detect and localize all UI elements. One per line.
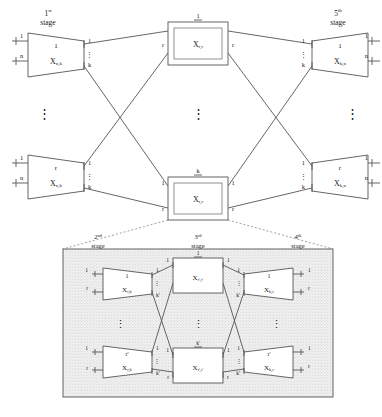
inset-center-bottom-out-top: 1	[227, 347, 230, 353]
left-bottom-in-bottom: n	[20, 174, 24, 181]
inset-right-top-top-port: 1	[268, 273, 271, 279]
fourth-stage-sup: th	[298, 233, 302, 238]
third-stage-word: stage	[191, 242, 204, 249]
fifth-stage-sup: th	[338, 8, 342, 13]
inset-right-top-out-bottom: r	[308, 285, 310, 291]
inset-expanded-middle: 2nd stage 3rd stage 4th stage	[63, 233, 333, 397]
fifth-stage-word: stage	[330, 18, 346, 27]
inset-right-bottom-in-bottom: k'	[236, 370, 240, 376]
left-top-in-bottom: n	[20, 52, 24, 59]
inset-right-bottom-port-ellipsis: ⋮	[236, 358, 242, 364]
center-top-top-port: 1	[196, 12, 199, 19]
expansion-guide-left	[63, 220, 168, 249]
inset-right-top-port-ellipsis: ⋮	[236, 280, 242, 286]
inset-right-top-in-top: 1	[237, 267, 240, 273]
svg-text:1st: 1st	[44, 8, 52, 18]
left-top-in-top: 1	[20, 32, 23, 39]
left-top-out-bottom: k	[88, 61, 92, 68]
right-top-top-port: 1	[338, 42, 342, 50]
second-stage-word: stage	[91, 242, 104, 249]
stage-label-third: 3rd stage	[191, 233, 204, 250]
first-stage-sup: st	[48, 8, 52, 13]
right-top-output-stubs	[368, 41, 380, 61]
block-center-top[interactable]: 1 Xr,r r r	[162, 12, 235, 65]
stage-label-first: 1st stage	[40, 8, 56, 27]
inset-right-bottom-out-top: 1	[308, 345, 311, 351]
inset-right-bottom-out-bottom: r	[308, 363, 310, 369]
block-left-bottom[interactable]: r Xn,k 1 n 1 k ⋮	[12, 154, 93, 199]
block-right-bottom[interactable]: r Xk,n 1 k ⋮ 1 n	[300, 154, 381, 199]
inset-center-top-in-port: 1	[166, 257, 169, 263]
inset-left-top-in-bottom: r	[86, 285, 88, 291]
inset-left-column-ellipsis: ⋮	[115, 318, 126, 330]
right-column-ellipsis: ⋮	[346, 106, 359, 121]
inset-left-bottom-port-ellipsis: ⋮	[154, 358, 160, 364]
left-bottom-out-top: 1	[88, 159, 91, 166]
center-bottom-out-top: 1	[231, 179, 234, 186]
left-bottom-in-top: 1	[20, 154, 23, 161]
third-stage-sup: rd	[198, 233, 202, 238]
left-column-ellipsis: ⋮	[38, 106, 51, 121]
right-top-out-top: 1	[365, 32, 368, 39]
right-bottom-output-stubs	[368, 163, 380, 183]
outer-network: 1st stage 5th stage 1 Xn,k 1 n 1	[12, 8, 380, 220]
block-center-bottom[interactable]: k Xr,r 1 1 r r	[161, 167, 235, 220]
expansion-guide-right	[228, 220, 333, 249]
inset-right-top-in-bottom: k'	[236, 292, 240, 298]
center-top-out-port: r	[232, 41, 235, 48]
right-top-port-ellipsis: ⋮	[300, 51, 307, 59]
right-top-in-bottom: k	[302, 61, 306, 68]
inset-right-bottom-top-port: r'	[267, 351, 270, 357]
block-left-top[interactable]: 1 Xn,k 1 n 1 k ⋮	[12, 32, 93, 77]
inset-right-top-out-top: 1	[308, 267, 311, 273]
inset-center-column-ellipsis: ⋮	[193, 318, 204, 330]
second-stage-sup: nd	[97, 233, 102, 238]
inset-left-top-port-ellipsis: ⋮	[154, 280, 160, 286]
right-bottom-port-ellipsis: ⋮	[300, 173, 307, 181]
inset-center-bottom-out-bottom: r	[227, 374, 229, 380]
inset-left-bottom-out-top: 1	[156, 345, 159, 351]
inset-left-bottom-top-port: r'	[125, 351, 128, 357]
inset-left-top-out-bottom: k'	[156, 292, 160, 298]
fourth-stage-word: stage	[291, 242, 304, 249]
figure-canvas: 1st stage 5th stage 1 Xn,k 1 n 1	[0, 0, 382, 417]
left-bottom-port-ellipsis: ⋮	[86, 173, 93, 181]
clos-network-diagram: 1st stage 5th stage 1 Xn,k 1 n 1	[0, 0, 382, 417]
right-top-in-top: 1	[302, 37, 305, 44]
first-stage-word: stage	[40, 18, 56, 27]
inset-left-bottom-in-top: 1	[85, 345, 88, 351]
svg-text:5th: 5th	[334, 8, 342, 18]
block-right-top[interactable]: 1 Xk,n 1 k ⋮ 1 n	[300, 32, 381, 77]
left-top-port-ellipsis: ⋮	[86, 51, 93, 59]
inset-left-top-in-top: 1	[85, 267, 88, 273]
inset-center-bottom-top-port: k'	[196, 340, 200, 346]
left-top-top-port: 1	[54, 42, 58, 50]
inset-left-top-top-port: 1	[126, 273, 129, 279]
inset-center-top-top-port: 1	[197, 250, 200, 256]
right-bottom-in-top: 1	[302, 159, 305, 166]
inset-right-column-ellipsis: ⋮	[271, 318, 282, 330]
inset-left-bottom-out-bottom: k'	[156, 370, 160, 376]
right-bottom-out-top: 1	[365, 154, 368, 161]
stage-label-fifth: 5th stage	[330, 8, 346, 27]
center-top-in-port: r	[162, 41, 165, 48]
inset-center-bottom-in-top: 1	[166, 347, 169, 353]
center-column-ellipsis: ⋮	[192, 106, 205, 121]
inset-left-bottom-in-bottom: r	[86, 365, 88, 371]
svg-text:3rd: 3rd	[195, 233, 203, 241]
inset-center-bottom-in-bottom: r	[167, 374, 169, 380]
left-top-out-top: 1	[88, 37, 91, 44]
inset-left-top-out-top: 1	[156, 267, 159, 273]
center-bottom-top-port: k	[196, 167, 200, 174]
center-bottom-in-bottom: r	[162, 205, 165, 212]
inset-right-bottom-in-top: 1	[237, 345, 240, 351]
inset-center-top-out-port: 1	[227, 257, 230, 263]
center-bottom-in-top: 1	[161, 179, 164, 186]
